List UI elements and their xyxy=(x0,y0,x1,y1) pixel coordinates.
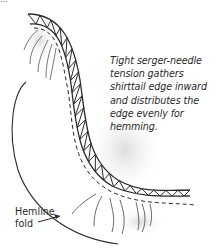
caption-line: hemming. xyxy=(110,120,215,133)
label-line: fold xyxy=(15,218,55,230)
hemline-fold-label: Hemline fold xyxy=(15,206,55,230)
caption-line: edge evenly for xyxy=(110,107,215,120)
caption-line: and distributes the xyxy=(110,94,215,107)
caption-line: Tight serger-needle xyxy=(110,54,215,67)
caption: Tight serger-needle tension gathers shir… xyxy=(110,54,215,133)
caption-line: shirttail edge inward xyxy=(110,80,215,93)
label-line: Hemline xyxy=(15,206,55,218)
caption-line: tension gathers xyxy=(110,67,215,80)
